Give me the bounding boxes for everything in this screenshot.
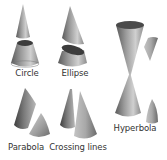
crossing-lines-right-cone: [74, 91, 97, 139]
hyperbola-double-cone: [115, 21, 144, 117]
parabola-piece: [29, 113, 50, 137]
label-circle: Circle: [15, 68, 38, 78]
label-ellipse: Ellipse: [62, 68, 89, 78]
hyperbola-upper-piece: [144, 37, 158, 61]
crossing-lines-section: [60, 89, 97, 139]
label-crossing-lines: Crossing lines: [49, 142, 107, 152]
hyperbola-lower-piece: [146, 99, 158, 124]
parabola-section: [14, 88, 50, 137]
circle-section: [11, 4, 39, 67]
label-hyperbola: Hyperbola: [114, 123, 157, 133]
ellipse-top-cone: [62, 6, 84, 44]
label-parabola: Parabola: [8, 142, 44, 152]
conic-sections-diagram: Circle Ellipse Hyperbola Parabola Crossi…: [0, 0, 167, 160]
circle-top-cone: [16, 4, 30, 39]
circle-frustum: [11, 40, 39, 67]
parabola-cone: [14, 88, 36, 129]
ellipse-section: [58, 6, 87, 67]
ellipse-bottom-piece: [58, 43, 87, 67]
hyperbola-section: [115, 21, 158, 124]
crossing-lines-left-cone: [60, 89, 75, 129]
